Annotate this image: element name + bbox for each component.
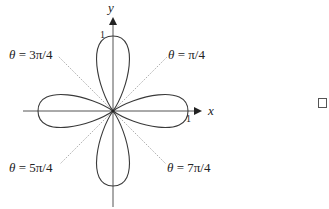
equals-sign: = [15,47,29,62]
ray-3pi-4 [58,56,113,111]
angle-value: 7π/4 [187,160,210,175]
ray-label-7pi-4: θ = 7π/4 [167,161,210,174]
ray-label-5pi-4: θ = 5π/4 [9,161,52,174]
y-tick-label: 1 [100,30,105,40]
qed-square-symbol [318,98,327,108]
ray-7pi-4 [113,111,166,164]
angle-value: 3π/4 [29,47,52,62]
equals-sign: = [174,47,188,62]
diagram-canvas [0,0,329,209]
ray-5pi-4 [60,111,113,164]
ray-label-pi-4: θ = π/4 [168,48,205,61]
ray-pi-4 [113,57,167,111]
origin-point [111,109,114,112]
x-axis-label: x [208,104,214,117]
angle-value: π/4 [188,47,205,62]
x-tick-label: 1 [186,114,191,124]
ray-label-3pi-4: θ = 3π/4 [9,48,52,61]
polar-rose-diagram: y x 1 1 θ = 3π/4 θ = π/4 θ = 5π/4 θ = 7π… [0,0,329,209]
equals-sign: = [15,160,29,175]
y-axis-label: y [108,1,114,14]
angle-value: 5π/4 [29,160,52,175]
equals-sign: = [173,160,187,175]
